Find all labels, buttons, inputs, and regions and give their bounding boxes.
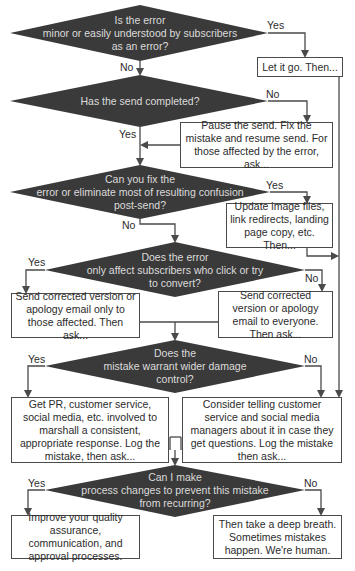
d5-line3: control? <box>156 373 193 386</box>
action-deep-breath: Then take a deep breath. Sometimes mista… <box>213 515 342 559</box>
d4-line3: to convert? <box>149 277 201 290</box>
label-d5-yes: Yes <box>28 353 45 365</box>
d6-line2: process changes to prevent this mistake <box>81 484 268 497</box>
edge-d3-no <box>140 219 175 241</box>
action-improve-quality: Improve your quality assurance, communic… <box>11 515 140 559</box>
decision-text-6: Can I make process changes to prevent th… <box>65 470 285 510</box>
label-d5-no: No <box>304 353 317 365</box>
edge-d2-no <box>268 101 307 121</box>
label-d3-no: No <box>122 219 135 231</box>
d3-line2: error or eliminate most of resulting con… <box>36 186 243 199</box>
action-send-affected: Send corrected version or apology email … <box>11 293 140 338</box>
action-consider-telling: Consider telling customer service and so… <box>182 397 342 463</box>
action-get-pr: Get PR, customer service, social media, … <box>11 397 169 463</box>
action-send-everyone: Send corrected version or apology email … <box>218 291 333 338</box>
d1-line3: as an error? <box>112 40 169 53</box>
d2-line1: Has the send completed? <box>80 95 199 108</box>
label-d4-yes: Yes <box>28 256 45 268</box>
d3-line1: Can you fix the <box>105 173 175 186</box>
d4-line1: Does the error <box>141 251 208 264</box>
action-update-files: Update image files, link redirects, land… <box>226 203 333 248</box>
d1-line1: Is the error <box>115 14 166 27</box>
label-d2-yes: Yes <box>119 128 136 140</box>
d1-line2: minor or easily understood by subscriber… <box>43 27 237 40</box>
label-d6-no: No <box>304 477 317 489</box>
label-d4-no: No <box>305 272 318 284</box>
edge-d5-no <box>305 366 321 396</box>
action-pause-send: Pause the send. Fix the mistake and resu… <box>180 122 333 168</box>
label-d1-yes: Yes <box>267 19 284 31</box>
label-d2-no: No <box>266 88 279 100</box>
d3-line3: post-send? <box>114 199 166 212</box>
decision-text-2: Has the send completed? <box>40 94 240 108</box>
label-d6-yes: Yes <box>28 477 45 489</box>
d5-line1: Does the <box>154 347 196 360</box>
d5-line2: mistake warrant wider damage <box>104 360 247 373</box>
edge-d5-yes <box>28 366 45 396</box>
action-let-it-go: Let it go. Then... <box>257 57 343 77</box>
edge-d1-yes <box>268 33 305 56</box>
label-d1-no: No <box>120 61 133 73</box>
d4-line2: only affect subscribers who click or try <box>87 264 264 277</box>
edge-d6-no <box>305 490 321 514</box>
d6-line1: Can I make <box>148 471 202 484</box>
label-d3-yes: Yes <box>266 179 283 191</box>
decision-text-5: Does the mistake warrant wider damage co… <box>75 346 275 386</box>
decision-text-1: Is the error minor or easily understood … <box>40 13 240 53</box>
decision-text-4: Does the error only affect subscribers w… <box>75 250 275 290</box>
d6-line3: from recurring? <box>139 497 210 510</box>
decision-text-3: Can you fix the error or eliminate most … <box>30 172 250 212</box>
